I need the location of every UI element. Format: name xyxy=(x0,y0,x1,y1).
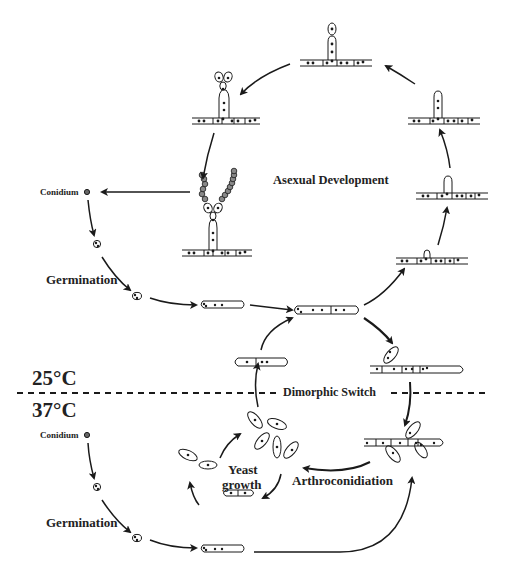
label-germination-top: Germination xyxy=(46,272,118,288)
branched-hypha xyxy=(370,344,463,373)
label-arthroconidiation: Arthroconidiation xyxy=(292,473,393,489)
conidium-top-icon xyxy=(84,189,89,194)
conidiophore-phialides xyxy=(192,71,260,124)
conidiophore-conidia-chains xyxy=(182,202,252,256)
label-dimorphic-switch: Dimorphic Switch xyxy=(283,385,376,400)
label-temp-37: 37°C xyxy=(32,398,77,423)
label-temp-25: 25°C xyxy=(32,366,77,391)
label-conidium-bottom: Conidium xyxy=(40,430,79,440)
label-yeast: Yeast xyxy=(228,462,258,478)
conidiophore-early xyxy=(300,23,372,66)
conidium-bottom-icon xyxy=(84,432,89,437)
septate-hypha xyxy=(295,306,359,314)
aerial-hypha-tall xyxy=(408,91,480,124)
label-growth: growth xyxy=(222,477,261,493)
label-germination-bottom: Germination xyxy=(46,515,118,531)
label-asexual-development: Asexual Development xyxy=(273,173,389,188)
arthroconidiating-hypha xyxy=(364,419,443,464)
label-conidium-top: Conidium xyxy=(40,187,79,197)
cycle-arrows xyxy=(88,64,450,552)
